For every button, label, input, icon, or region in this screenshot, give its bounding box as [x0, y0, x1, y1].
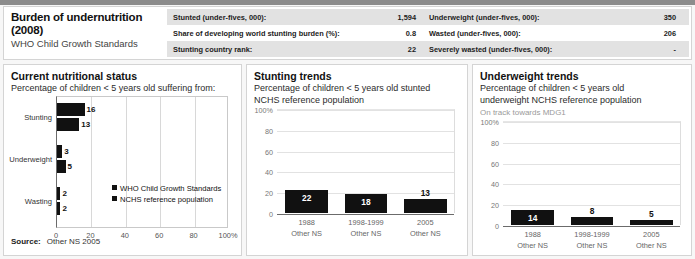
- bar-value-label: 3: [64, 147, 68, 156]
- x-axis-category: 2005Other NS: [396, 217, 455, 239]
- bar: [404, 199, 447, 213]
- y-axis-tick: 0: [269, 210, 273, 219]
- y-axis-tick: 60: [491, 159, 499, 168]
- y-axis-tick: 20: [265, 189, 273, 198]
- bar: [57, 160, 66, 173]
- x-axis-category: 2005Other NS: [622, 229, 681, 251]
- legend-label: NCHS reference population: [120, 195, 213, 204]
- y-axis-tick: 60: [265, 147, 273, 156]
- category-label: 2005: [396, 217, 455, 228]
- bar-value-label: 22: [285, 193, 328, 203]
- legend-label: WHO Child Growth Standards: [120, 184, 221, 193]
- panel-subtitle-line2: NCHS reference population: [247, 94, 467, 106]
- bar-value-label: 8: [571, 206, 614, 216]
- bar: [630, 220, 673, 225]
- header-title-cell: Burden of undernutrition (2008) WHO Chil…: [4, 7, 167, 59]
- panel-subtitle-line2: underweight NCHS reference population: [473, 94, 691, 106]
- category-label: 2005: [622, 229, 681, 240]
- panel-note-mdg1: On track towards MDG1: [473, 106, 691, 118]
- burden-stats-table: Stunted (under-fives, 000): 1,594 Underw…: [167, 7, 691, 59]
- legend-item: WHO Child Growth Standards: [112, 183, 221, 194]
- category-source-label: Other NS: [503, 240, 562, 251]
- legend-swatch-icon: [112, 196, 117, 201]
- x-axis-tick: 80: [189, 231, 197, 240]
- panel-title: Current nutritional status: [4, 65, 241, 82]
- source-label: Source:: [11, 237, 41, 246]
- gridline: [160, 97, 161, 227]
- panel-stunting-trends: Stunting trends Percentage of children <…: [246, 64, 468, 256]
- gridline: [503, 143, 680, 144]
- category-label: 1998-1999: [336, 217, 395, 228]
- panel-subtitle-line1: Percentage of children < 5 years old stu…: [247, 82, 467, 94]
- x-axis-category: 1998-1999Other NS: [336, 217, 395, 239]
- page-title: Burden of undernutrition (2008): [11, 11, 167, 37]
- panel-subtitle-line1: Percentage of children < 5 years old: [473, 82, 691, 94]
- panel-current-nutritional-status: Current nutritional status Percentage of…: [3, 64, 242, 256]
- gridline: [277, 214, 454, 215]
- bar-value-label: 16: [87, 105, 96, 114]
- stat-group-left: Share of developing world stunting burde…: [167, 29, 423, 38]
- stat-group-left: Stunting country rank: 22: [167, 45, 423, 54]
- panel-underweight-trends: Underweight trends Percentage of childre…: [472, 64, 692, 256]
- stat-value: -: [616, 45, 683, 54]
- chart-legend: WHO Child Growth Standards NCHS referenc…: [112, 183, 221, 205]
- stat-label: Severely wasted (under-fives, 000):: [423, 45, 616, 54]
- y-axis-tick: 0: [495, 222, 499, 231]
- y-axis-tick: 100%: [481, 118, 499, 127]
- gridline: [277, 172, 454, 173]
- category-label: Stunting: [4, 113, 52, 122]
- category-label: 1988: [503, 229, 562, 240]
- x-axis-tick: 100%: [219, 231, 238, 240]
- y-axis-tick: 80: [491, 138, 499, 147]
- gridline: [277, 131, 454, 132]
- stat-label: Share of developing world stunting burde…: [167, 29, 356, 38]
- bar: [57, 187, 60, 200]
- y-axis-tick: 100%: [255, 106, 273, 115]
- gridline: [91, 97, 92, 227]
- x-axis-category: 1988Other NS: [277, 217, 336, 239]
- y-axis-tick: 40: [265, 168, 273, 177]
- stat-label: Underweight (under-fives, 000):: [423, 13, 616, 22]
- category-source-label: Other NS: [622, 240, 681, 251]
- stat-label: Wasted (under-fives, 000):: [423, 29, 616, 38]
- stat-value: 350: [616, 13, 683, 22]
- table-row: Share of developing world stunting burde…: [167, 25, 689, 41]
- bar: [57, 103, 85, 116]
- bar-value-label: 5: [630, 209, 673, 219]
- stat-group-left: Stunted (under-fives, 000): 1,594: [167, 13, 423, 22]
- gridline: [195, 97, 196, 227]
- stat-value: 1,594: [356, 13, 423, 22]
- bar-value-label: 18: [345, 197, 388, 207]
- table-row: Stunted (under-fives, 000): 1,594 Underw…: [167, 9, 689, 25]
- category-label: Wasting: [4, 197, 52, 206]
- undernutrition-profile-page: Burden of undernutrition (2008) WHO Chil…: [0, 0, 695, 259]
- horizontal-bar-chart: [56, 96, 228, 228]
- bar-value-label: 13: [81, 120, 90, 129]
- x-axis-tick: 20: [86, 231, 94, 240]
- legend-swatch-icon: [112, 185, 117, 190]
- panel-title: Stunting trends: [247, 65, 467, 82]
- category-source-label: Other NS: [396, 228, 455, 239]
- stat-group-right: Underweight (under-fives, 000): 350: [423, 13, 683, 22]
- x-axis-tick: 0: [54, 231, 58, 240]
- page-subtitle: WHO Child Growth Standards: [11, 38, 167, 50]
- stat-value: 206: [616, 29, 683, 38]
- bar-value-label: 14: [511, 213, 554, 223]
- stat-group-right: Wasted (under-fives, 000): 206: [423, 29, 683, 38]
- gridline: [277, 152, 454, 153]
- x-axis-category: 1988Other NS: [503, 229, 562, 251]
- y-axis-tick: 20: [491, 201, 499, 210]
- panel-subtitle: Percentage of children < 5 years old suf…: [4, 82, 241, 94]
- category-label: Underweight: [4, 155, 52, 164]
- bar: [57, 145, 62, 158]
- stat-value: 22: [356, 45, 423, 54]
- bar-value-label: 2: [62, 204, 66, 213]
- category-label: 1998-1999: [562, 229, 621, 240]
- category-source-label: Other NS: [562, 240, 621, 251]
- gridline: [503, 184, 680, 185]
- category-label: 1988: [277, 217, 336, 228]
- stat-label: Stunting country rank:: [167, 45, 356, 54]
- stat-label: Stunted (under-fives, 000):: [167, 13, 356, 22]
- legend-item: NCHS reference population: [112, 194, 221, 205]
- gridline: [503, 164, 680, 165]
